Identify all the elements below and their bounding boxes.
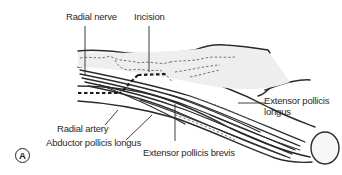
label-incision: Incision xyxy=(134,11,165,22)
label-radial-artery: Radial artery xyxy=(57,123,108,134)
label-radial-nerve: Radial nerve xyxy=(66,11,117,22)
panel-label-badge: A xyxy=(15,148,30,163)
label-abductor-pollicis-longus: Abductor pollicis longus xyxy=(46,137,141,148)
label-extensor-pollicis-brevis: Extensor pollicis brevis xyxy=(143,147,235,158)
label-extensor-pollicis-longus-2: longus xyxy=(264,106,291,117)
panel-label-text: A xyxy=(19,150,26,161)
skin-shading xyxy=(78,46,290,89)
label-extensor-pollicis-longus-1: Extensor pollicis xyxy=(264,95,329,106)
